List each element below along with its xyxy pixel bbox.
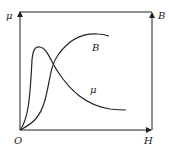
b-curve-label: B — [91, 42, 99, 53]
diagram: μ B H O B μ — [0, 0, 169, 154]
mu-curve — [20, 47, 126, 130]
mu-curve-label: μ — [90, 84, 97, 95]
origin-label: O — [14, 135, 22, 146]
h-axis-label: H — [143, 135, 153, 146]
b-axis-label: B — [157, 10, 165, 21]
mu-axis-label: μ — [6, 10, 13, 21]
